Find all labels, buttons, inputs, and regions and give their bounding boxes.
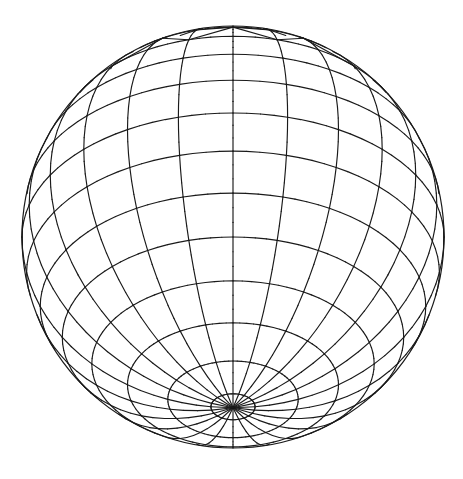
mesh-edge (324, 164, 336, 168)
mesh-edge (355, 322, 359, 327)
mesh-edge (189, 416, 201, 418)
mesh-edge (106, 78, 116, 83)
mesh-edge (128, 142, 129, 155)
mesh-edge (78, 275, 85, 287)
mesh-edge (193, 355, 200, 366)
mesh-edge (339, 309, 345, 313)
mesh-edge (81, 356, 92, 364)
mesh-edge (395, 305, 398, 311)
mesh-edge (116, 212, 126, 216)
mesh-edge (283, 58, 295, 60)
mesh-edge (409, 212, 412, 225)
mesh-edge (185, 45, 187, 51)
mesh-edge (388, 122, 397, 128)
mesh-edge (41, 314, 42, 321)
mesh-edge (50, 168, 57, 175)
mesh-edge (330, 405, 332, 409)
mesh-edge (200, 429, 207, 433)
mesh-edge (322, 369, 335, 377)
mesh-edge (224, 419, 228, 426)
mesh-edge (27, 257, 28, 265)
mesh-edge (369, 181, 379, 186)
mesh-edge (200, 37, 211, 38)
mesh-edge (337, 258, 346, 262)
mesh-edge (103, 372, 115, 379)
mesh-edge (202, 312, 205, 325)
mesh-edge (266, 433, 273, 436)
mesh-edge (418, 148, 424, 155)
mesh-edge (168, 399, 182, 402)
mesh-edge (273, 83, 286, 85)
mesh-edge (66, 155, 75, 161)
mesh-edge (292, 333, 298, 335)
mesh-edge (97, 337, 100, 342)
mesh-edge (286, 84, 299, 86)
mesh-edge (179, 84, 180, 94)
mesh-edge (278, 285, 287, 287)
mesh-edge (303, 338, 308, 341)
mesh-edge (128, 126, 140, 130)
mesh-edge (405, 205, 412, 212)
mesh-edge (162, 289, 170, 292)
mesh-edge (431, 284, 436, 295)
mesh-edge (242, 374, 246, 385)
mesh-edge (255, 238, 266, 239)
mesh-edge (298, 341, 307, 352)
mesh-edge (373, 353, 374, 358)
mesh-edge (128, 393, 129, 397)
mesh-edge (84, 126, 85, 137)
mesh-edge (168, 305, 174, 318)
mesh-edge (388, 262, 394, 274)
mesh-edge (369, 332, 379, 342)
mesh-edge (246, 55, 259, 56)
mesh-edge (68, 311, 77, 322)
mesh-edge (42, 284, 44, 291)
mesh-edge (129, 154, 130, 167)
mesh-edge (246, 432, 250, 437)
mesh-edge (333, 305, 339, 309)
mesh-edge (270, 269, 273, 283)
mesh-edge (187, 226, 189, 241)
mesh-edge (295, 60, 307, 63)
mesh-edge (47, 277, 53, 289)
mesh-edge (412, 199, 414, 211)
mesh-edge (372, 144, 382, 150)
mesh-edge (185, 211, 187, 226)
mesh-edge (424, 314, 425, 321)
mesh-edge (398, 300, 406, 311)
mesh-edge (347, 391, 359, 396)
mesh-edge (270, 284, 279, 286)
mesh-edge (170, 389, 184, 394)
mesh-edge (249, 416, 259, 420)
mesh-edge (212, 362, 216, 363)
mesh-edge (216, 362, 220, 363)
mesh-edge (142, 354, 153, 363)
mesh-edge (118, 167, 129, 171)
mesh-edge (244, 418, 251, 424)
mesh-edge (299, 87, 312, 90)
mesh-edge (154, 87, 167, 90)
mesh-edge (272, 255, 275, 269)
mesh-edge (92, 353, 93, 358)
mesh-edge (212, 446, 219, 447)
mesh-edge (47, 270, 51, 277)
mesh-edge (259, 366, 266, 376)
mesh-edge (157, 407, 170, 409)
mesh-edge (375, 282, 381, 288)
mesh-edge (129, 254, 138, 258)
mesh-edge (259, 429, 266, 433)
mesh-edge (257, 325, 260, 338)
mesh-edge (261, 114, 275, 115)
mesh-edge (279, 331, 286, 343)
mesh-edge (304, 38, 354, 65)
mesh-edge (63, 344, 64, 351)
mesh-edge (60, 250, 66, 257)
mesh-edge (187, 436, 194, 438)
mesh-edge (181, 169, 182, 183)
mesh-edge (51, 187, 52, 199)
mesh-edge (38, 182, 44, 189)
mesh-edge (271, 56, 283, 58)
mesh-edge (260, 81, 273, 82)
mesh-edge (200, 366, 207, 376)
mesh-edge (142, 350, 146, 353)
